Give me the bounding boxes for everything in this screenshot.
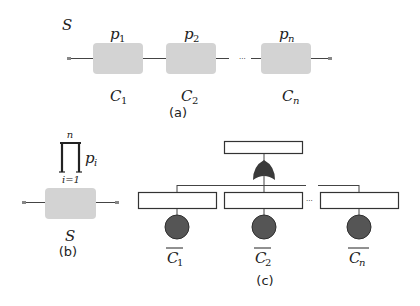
component-sub: n <box>293 95 299 106</box>
caption-b: (b) <box>59 244 77 259</box>
basic-event-circle-icon <box>347 215 371 239</box>
caption-a: (a) <box>169 105 187 120</box>
event-sub: 2 <box>265 257 271 268</box>
product-lower: i=1 <box>62 174 80 185</box>
component-sub: 2 <box>192 95 198 106</box>
event-sub: 1 <box>177 257 183 268</box>
prob-sub: 2 <box>193 33 199 44</box>
basic-event-circle-icon <box>252 215 276 239</box>
ellipsis: ··· <box>239 55 246 63</box>
component-cn: p n C n <box>261 25 311 106</box>
panel-a-series-system: S ··· p 1 C 1 p 2 C 2 p n <box>62 16 332 120</box>
ellipsis: ··· <box>306 197 313 205</box>
prob-sub: n <box>288 33 294 44</box>
prob-sub: 1 <box>119 33 125 44</box>
system-box <box>45 188 96 219</box>
input-terminal <box>67 57 71 60</box>
input-terminal <box>22 201 26 204</box>
component-box <box>166 43 216 74</box>
component-box <box>261 43 311 74</box>
panel-c-fault-tree: C 1 C 2 ··· C n (c) <box>139 142 399 289</box>
component-c1: p 1 C 1 <box>93 25 143 106</box>
panel-b-equivalent-system: n i=1 p i S (b) <box>22 129 119 259</box>
product-term-sub: i <box>94 157 97 168</box>
output-terminal <box>328 57 332 60</box>
output-terminal <box>115 201 119 204</box>
component-c2: p 2 C 2 <box>166 25 216 106</box>
caption-c: (c) <box>256 273 273 288</box>
basic-event-c1: C 1 <box>139 193 217 269</box>
event-sub: n <box>359 257 365 268</box>
system-label-s: S <box>62 16 72 34</box>
component-box <box>93 43 143 74</box>
event-box <box>139 193 217 209</box>
component-sub: 1 <box>121 95 127 106</box>
product-upper: n <box>67 129 73 140</box>
event-box <box>225 193 303 209</box>
product-symbol-icon <box>59 143 82 172</box>
event-box <box>321 193 399 209</box>
top-event-box <box>225 142 303 154</box>
system-label-s: S <box>65 227 75 245</box>
basic-event-cn: C n <box>321 193 399 269</box>
basic-event-circle-icon <box>165 215 189 239</box>
diagram-canvas: S ··· p 1 C 1 p 2 C 2 p n <box>0 0 420 306</box>
basic-event-c2: C 2 <box>225 193 303 269</box>
